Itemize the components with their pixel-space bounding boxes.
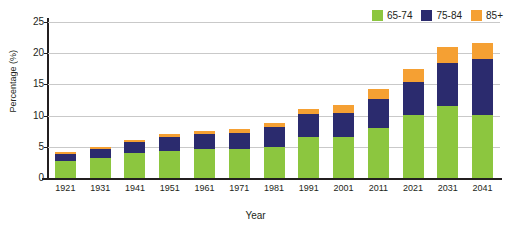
bar-segment-85-plus-2031[interactable] <box>437 47 458 63</box>
bar-stack-1971[interactable] <box>229 129 250 178</box>
bar-segment-65-74-1981[interactable] <box>264 147 285 178</box>
bar-stack-2001[interactable] <box>333 105 354 178</box>
bar-segment-65-74-2041[interactable] <box>472 115 493 178</box>
y-tick-label-20: 20 <box>28 48 44 58</box>
bar-segment-75-84-2001[interactable] <box>333 113 354 138</box>
plot-area <box>48 20 500 178</box>
bar-segment-65-74-1961[interactable] <box>194 149 215 178</box>
bar-stack-1941[interactable] <box>124 140 145 178</box>
bar-stack-2031[interactable] <box>437 47 458 178</box>
x-axis-title: Year <box>0 210 511 221</box>
x-tick-label-2041: 2041 <box>465 183 500 193</box>
bar-segment-75-84-1941[interactable] <box>124 142 145 153</box>
bar-segment-65-74-2011[interactable] <box>368 128 389 178</box>
bar-stack-2021[interactable] <box>403 69 424 178</box>
y-tick-label-25: 25 <box>28 17 44 27</box>
x-tick-label-1961: 1961 <box>187 183 222 193</box>
x-tick-label-1971: 1971 <box>222 183 257 193</box>
bar-segment-65-74-1951[interactable] <box>159 151 180 178</box>
x-axis-ticks: 1921193119411951196119711981199120012011… <box>48 183 500 197</box>
x-tick-label-2031: 2031 <box>430 183 465 193</box>
chart-figure: 65-74 75-84 85+ Percentage (%) 252015105… <box>0 0 511 234</box>
bar-segment-65-74-1921[interactable] <box>55 161 76 178</box>
bar-segment-65-74-2031[interactable] <box>437 106 458 178</box>
bar-segment-75-84-2031[interactable] <box>437 63 458 107</box>
x-tick-label-1981: 1981 <box>257 183 292 193</box>
x-tick-label-1951: 1951 <box>152 183 187 193</box>
bar-segment-75-84-2021[interactable] <box>403 82 424 115</box>
bar-segment-65-74-2021[interactable] <box>403 115 424 178</box>
x-axis-line <box>42 178 502 180</box>
bar-segment-85-plus-2021[interactable] <box>403 69 424 82</box>
bar-segment-75-84-1931[interactable] <box>90 149 111 158</box>
bar-segment-65-74-1931[interactable] <box>90 158 111 178</box>
y-tick-label-0: 0 <box>28 173 44 183</box>
x-tick-label-2011: 2011 <box>361 183 396 193</box>
y-tick-mark-0 <box>44 178 48 179</box>
y-axis-title: Percentage (%) <box>8 50 22 113</box>
bar-segment-75-84-1971[interactable] <box>229 133 250 149</box>
x-tick-label-1941: 1941 <box>118 183 153 193</box>
bar-segment-75-84-2011[interactable] <box>368 99 389 128</box>
bar-stack-1961[interactable] <box>194 131 215 178</box>
x-tick-label-1991: 1991 <box>291 183 326 193</box>
x-tick-label-2021: 2021 <box>396 183 431 193</box>
bar-stack-2011[interactable] <box>368 89 389 178</box>
x-tick-label-1931: 1931 <box>83 183 118 193</box>
bar-stack-1951[interactable] <box>159 134 180 178</box>
bar-stack-1981[interactable] <box>264 123 285 179</box>
bar-stack-1931[interactable] <box>90 147 111 178</box>
y-tick-label-15: 15 <box>28 79 44 89</box>
bar-stack-2041[interactable] <box>472 43 493 178</box>
bar-segment-75-84-1991[interactable] <box>298 114 319 136</box>
y-tick-label-10: 10 <box>28 111 44 121</box>
bar-segment-65-74-1991[interactable] <box>298 137 319 178</box>
x-tick-label-1921: 1921 <box>48 183 83 193</box>
x-tick-label-2001: 2001 <box>326 183 361 193</box>
bar-segment-85-plus-2041[interactable] <box>472 43 493 60</box>
bar-segment-75-84-2041[interactable] <box>472 59 493 115</box>
bar-series-group <box>48 20 500 178</box>
bar-segment-75-84-1981[interactable] <box>264 127 285 147</box>
bar-segment-85-plus-2011[interactable] <box>368 89 389 99</box>
bar-segment-65-74-1971[interactable] <box>229 149 250 178</box>
bar-segment-75-84-1961[interactable] <box>194 134 215 149</box>
bar-segment-65-74-1941[interactable] <box>124 153 145 178</box>
bar-stack-1921[interactable] <box>55 152 76 178</box>
bar-segment-85-plus-2001[interactable] <box>333 105 354 112</box>
bar-segment-75-84-1951[interactable] <box>159 137 180 151</box>
bar-stack-1991[interactable] <box>298 109 319 178</box>
y-tick-label-5: 5 <box>28 142 44 152</box>
bar-segment-65-74-2001[interactable] <box>333 137 354 178</box>
bar-segment-75-84-1921[interactable] <box>55 154 76 161</box>
